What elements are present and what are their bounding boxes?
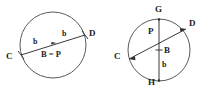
figure-canvas: C D b b B = P G H C D P B bbox=[0, 0, 212, 91]
right-label-b: B bbox=[164, 45, 170, 55]
right-label-b-segment: b bbox=[162, 60, 167, 69]
right-circle-diagram: G H C D P B b bbox=[114, 4, 196, 87]
left-label-b-right: b bbox=[62, 29, 67, 38]
right-label-c: C bbox=[114, 51, 121, 61]
right-point-h-dot bbox=[158, 79, 160, 81]
right-chord-cd bbox=[129, 29, 186, 59]
geometry-figure: C D b b B = P G H C D P B bbox=[0, 0, 212, 91]
right-label-h: H bbox=[148, 77, 155, 87]
right-label-d: D bbox=[189, 18, 196, 28]
left-label-center-b-equals-p: B = P bbox=[41, 49, 61, 59]
right-label-p: P bbox=[148, 26, 154, 36]
left-label-b-left: b bbox=[33, 37, 38, 46]
left-label-d: D bbox=[89, 28, 96, 38]
right-label-g: G bbox=[155, 4, 162, 14]
right-point-g-dot bbox=[158, 18, 160, 20]
left-label-c: C bbox=[6, 51, 13, 61]
left-circle-diagram: C D b b B = P bbox=[6, 12, 96, 78]
